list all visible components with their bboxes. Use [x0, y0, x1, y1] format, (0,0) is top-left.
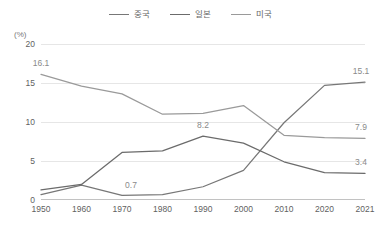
data-label: 16.1	[33, 58, 50, 68]
y-axis-tick-label: 15	[7, 78, 35, 88]
x-axis-tick-label: 1960	[72, 204, 91, 214]
y-axis-tick-label: 5	[7, 156, 35, 166]
chart-legend: 중국일본미국	[0, 10, 381, 19]
x-axis-tick-label: 1980	[153, 204, 172, 214]
x-axis-tick-label: 1970	[113, 204, 132, 214]
legend-line-icon	[170, 14, 190, 15]
x-axis-tick-label: 2020	[315, 204, 334, 214]
data-label: 3.4	[355, 157, 367, 167]
legend-line-icon	[231, 14, 251, 15]
legend-entry-0[interactable]: 중국	[109, 10, 150, 19]
x-axis-line	[41, 199, 365, 200]
x-axis-tick-label: 1990	[194, 204, 213, 214]
x-axis-tick-label: 2010	[275, 204, 294, 214]
data-label: 8.2	[197, 120, 209, 130]
y-axis-unit-label: (%)	[14, 30, 26, 39]
series-line-일본	[41, 136, 365, 190]
data-label: 7.9	[355, 122, 367, 132]
legend-entry-2[interactable]: 미국	[231, 10, 272, 19]
legend-entry-1[interactable]: 일본	[170, 10, 211, 19]
y-axis-tick-label: 20	[7, 39, 35, 49]
x-axis-tick-label: 2021	[356, 204, 375, 214]
line-chart: 중국일본미국 (%) 05101520 19501960197019801990…	[0, 0, 381, 229]
x-axis-tick-label: 1950	[32, 204, 51, 214]
legend-label: 미국	[256, 10, 272, 19]
legend-line-icon	[109, 14, 129, 15]
data-label: 0.7	[125, 180, 137, 190]
legend-label: 중국	[134, 10, 150, 19]
plot-area: 05101520 1950196019701980199020002010202…	[41, 44, 365, 200]
x-axis-tick-label: 2000	[234, 204, 253, 214]
y-axis-tick-label: 10	[7, 117, 35, 127]
legend-label: 일본	[195, 10, 211, 19]
data-label: 15.1	[353, 66, 370, 76]
